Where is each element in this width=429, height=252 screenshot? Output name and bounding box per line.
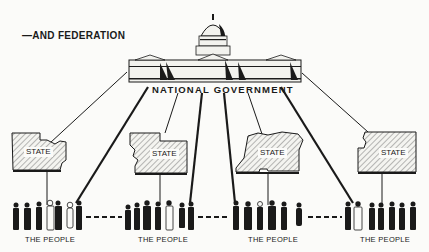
state-shape-4: [358, 132, 416, 205]
federation-diagram: —AND FEDERATION NATIONAL GOVERNMENT STAT…: [0, 0, 429, 252]
state-label-4: STATE: [379, 148, 408, 158]
capitol-building-icon: [129, 14, 301, 82]
people-group-1: [13, 200, 82, 230]
people-label-2: THE PEOPLE: [138, 235, 188, 244]
state-shape-1: [12, 133, 66, 205]
people-group-4: [345, 201, 416, 230]
diagram-title: —AND FEDERATION: [22, 30, 125, 41]
state-label-2: STATE: [150, 149, 179, 159]
state-shape-3: [236, 132, 303, 205]
people-label-4: THE PEOPLE: [360, 235, 410, 244]
state-label-3: STATE: [258, 148, 287, 158]
people-group-2: [125, 200, 194, 230]
people-label-3: THE PEOPLE: [248, 235, 298, 244]
people-connection-lines: [76, 87, 353, 203]
people-figures: [13, 200, 416, 230]
state-shape-2: [130, 133, 187, 205]
state-connection-lines: [50, 72, 368, 143]
people-label-1: THE PEOPLE: [25, 235, 75, 244]
state-label-1: STATE: [24, 147, 53, 157]
national-government-label: NATIONAL GOVERNMENT: [152, 84, 294, 95]
